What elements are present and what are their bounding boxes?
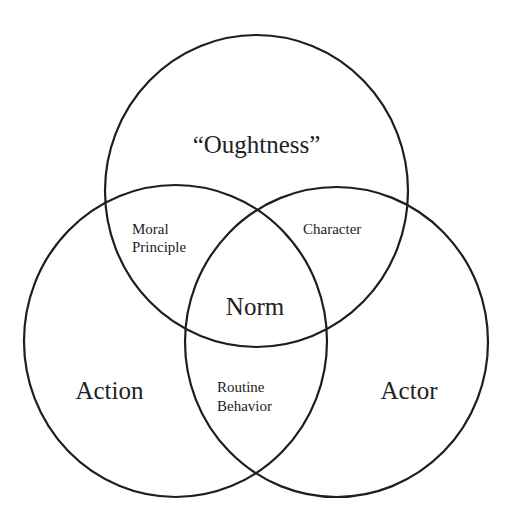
norm-label: Norm [226,293,285,320]
routine-behavior-label-line2: Behavior [217,398,272,414]
moral-principle-label-line2: Principle [132,239,186,255]
actor-label: Actor [381,377,439,404]
routine-behavior-label-line1: Routine [217,379,265,395]
oughtness-label: “Oughtness” [193,131,321,158]
action-circle [24,185,327,497]
venn-diagram: “Oughtness” Action Actor Moral Principle… [0,0,513,519]
character-label: Character [303,221,361,237]
action-label: Action [75,377,144,404]
moral-principle-label-line1: Moral [132,221,169,237]
